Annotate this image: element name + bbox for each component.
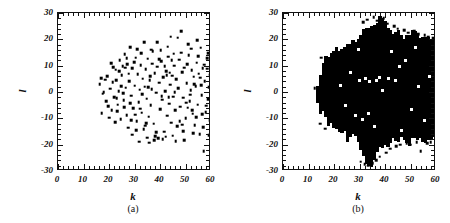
- data-point: [128, 80, 131, 83]
- y-tick: [58, 139, 61, 140]
- x-tick-label: 40: [155, 175, 164, 184]
- y-tick: [58, 29, 61, 30]
- y-tick: [58, 45, 61, 46]
- x-tick: [293, 166, 294, 169]
- data-point: [207, 98, 210, 101]
- x-tick: [99, 166, 100, 169]
- data-point: [142, 128, 145, 131]
- scatter-points-a: [58, 13, 209, 169]
- y-tick-label: 0: [274, 87, 279, 96]
- y-tick-label: -30: [266, 166, 278, 175]
- x-tick-label: 60: [431, 175, 440, 184]
- x-tick: [78, 13, 79, 16]
- x-tick: [73, 166, 74, 169]
- data-point: [151, 88, 154, 91]
- x-tick-label: 60: [206, 175, 215, 184]
- x-tick: [180, 13, 181, 16]
- blob-gap: [400, 129, 403, 132]
- x-tick: [150, 166, 151, 169]
- blob-gap: [423, 119, 426, 122]
- data-point: [114, 121, 117, 124]
- x-tick: [68, 13, 69, 16]
- data-point: [145, 122, 148, 125]
- data-point: [200, 46, 203, 49]
- x-tick: [78, 166, 79, 169]
- x-tick: [84, 164, 85, 169]
- data-point: [206, 68, 209, 71]
- y-tick: [283, 18, 286, 19]
- y-tick: [283, 134, 286, 135]
- y-tick: [204, 118, 209, 119]
- x-tick: [329, 13, 330, 16]
- x-tick: [145, 166, 146, 169]
- data-point: [166, 45, 169, 48]
- x-tick: [109, 164, 110, 169]
- data-point: [201, 94, 204, 97]
- y-tick: [204, 92, 209, 93]
- y-tick: [431, 81, 434, 82]
- data-point: [101, 112, 104, 115]
- data-point: [188, 100, 191, 103]
- data-point: [167, 96, 170, 99]
- x-tick: [201, 166, 202, 169]
- fringe-block: [389, 141, 392, 144]
- x-tick: [129, 166, 130, 169]
- data-point: [185, 82, 188, 85]
- data-point: [156, 41, 159, 44]
- blob-gap: [387, 77, 390, 80]
- x-tick: [349, 166, 350, 169]
- y-tick: [206, 166, 209, 167]
- data-point: [191, 112, 194, 115]
- x-tick: [119, 13, 120, 16]
- data-point: [158, 81, 161, 84]
- data-point: [139, 108, 142, 111]
- x-tick: [370, 166, 371, 169]
- x-tick: [400, 166, 401, 169]
- fringe-block: [397, 30, 400, 34]
- outlier-point: [366, 18, 369, 21]
- data-point: [147, 86, 150, 89]
- data-point: [145, 98, 148, 101]
- outlier-point: [371, 162, 374, 165]
- data-point: [110, 62, 113, 65]
- blob-gap: [381, 89, 384, 92]
- y-tick: [206, 55, 209, 56]
- y-tick-label: -30: [41, 166, 53, 175]
- y-tick: [58, 60, 61, 61]
- x-tick: [395, 13, 396, 16]
- outlier-point: [395, 145, 398, 148]
- data-point: [136, 73, 139, 76]
- data-point: [124, 66, 127, 69]
- x-tick: [175, 166, 176, 169]
- x-tick: [329, 166, 330, 169]
- data-point: [165, 70, 168, 73]
- data-point: [144, 124, 147, 127]
- blob-gap: [378, 76, 381, 79]
- data-point: [198, 133, 201, 136]
- x-tick: [385, 164, 386, 169]
- data-point: [180, 51, 183, 54]
- x-tick: [89, 166, 90, 169]
- data-point: [158, 58, 161, 61]
- data-point: [177, 87, 180, 90]
- outlier-point: [413, 30, 416, 33]
- data-point: [137, 101, 140, 104]
- x-tick: [124, 13, 125, 16]
- x-tick: [349, 13, 350, 16]
- y-tick: [431, 129, 434, 130]
- y-tick: [283, 92, 288, 93]
- y-tick: [431, 150, 434, 151]
- data-point: [105, 100, 108, 103]
- x-tick: [89, 13, 90, 16]
- outlier-point: [426, 142, 429, 145]
- y-tick: [283, 145, 288, 146]
- outlier-point: [389, 147, 392, 150]
- y-tick: [283, 118, 288, 119]
- x-tick: [390, 166, 391, 169]
- x-tick: [68, 166, 69, 169]
- y-tick: [283, 24, 286, 25]
- y-tick: [431, 45, 434, 46]
- data-point: [133, 84, 136, 87]
- y-tick: [206, 45, 209, 46]
- x-tick: [155, 166, 156, 169]
